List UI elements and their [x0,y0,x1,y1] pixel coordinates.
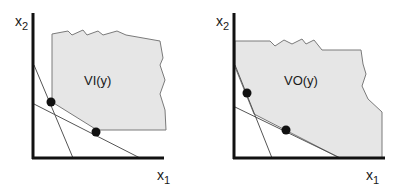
diagram-canvas: VI(y) x2 x1 VO(y) x2 x1 [0,0,404,191]
region-label: VI(y) [84,73,111,88]
x-axis-label: x1 [157,167,170,186]
x-axis-label: x1 [366,167,379,186]
vo-region [235,39,382,158]
optimal-point-2 [282,126,291,135]
optimal-point-2 [92,128,101,137]
y-axis-label: x2 [216,13,229,32]
optimal-point-1 [243,89,252,98]
right-panel: VO(y) x2 x1 [216,13,385,186]
left-panel: VI(y) x2 x1 [15,13,170,186]
region-label: VO(y) [284,73,318,88]
y-axis-label: x2 [15,13,28,32]
optimal-point-1 [47,98,56,107]
